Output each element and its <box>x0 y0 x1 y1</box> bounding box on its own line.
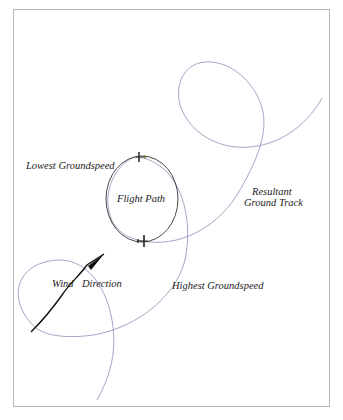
ground-track-curve-inner <box>108 62 322 242</box>
resultant-label: Resultant <box>252 186 292 197</box>
ground-track-curve-lower <box>31 157 188 336</box>
highest-groundspeed-label: Highest Groundspeed <box>172 280 263 291</box>
lowest-groundspeed-label: Lowest Groundspeed <box>26 160 115 171</box>
wind-label: Wind <box>52 278 74 289</box>
wind-drift-diagram <box>0 0 343 420</box>
direction-label: Direction <box>82 278 122 289</box>
ground-track-label: Ground Track <box>244 197 303 208</box>
flight-path-label: Flight Path <box>117 193 165 204</box>
aircraft-bottom-icon <box>137 235 148 247</box>
aircraft-top-icon <box>136 152 146 162</box>
